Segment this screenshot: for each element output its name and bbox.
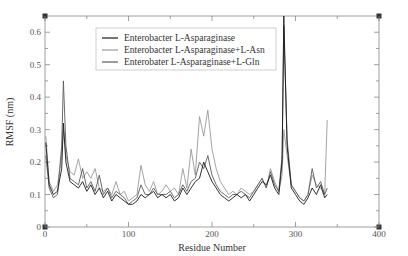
legend-entry: Enterobacter L-Asparaginase+L-Asn <box>124 45 265 55</box>
rmsf-chart: 010020030040000.10.20.30.40.50.6 RMSF (n… <box>0 0 408 256</box>
y-tick-label: 0.1 <box>30 190 41 200</box>
y-tick-label: 0.5 <box>30 60 42 70</box>
legend: Enterobacter L-AsparaginaseEnterobacter … <box>96 28 276 70</box>
x-tick-label: 400 <box>372 229 386 239</box>
series-line <box>46 110 327 201</box>
y-tick-label: 0.6 <box>30 27 42 37</box>
x-tick-label: 300 <box>289 229 303 239</box>
legend-entry: Enterobacter L-Asparaginase <box>124 33 235 43</box>
y-axis-title: RMSF (nm) <box>4 98 16 147</box>
legend-entry: Enterobater L-Asparaginase+L-Gln <box>124 57 260 67</box>
x-tick-label: 0 <box>43 229 48 239</box>
y-tick-label: 0.3 <box>30 125 42 135</box>
y-tick-label: 0.2 <box>30 157 41 167</box>
x-tick-label: 200 <box>205 229 219 239</box>
y-tick-label: 0.4 <box>30 92 42 102</box>
y-tick-label: 0 <box>37 222 42 232</box>
x-axis-title: Residue Number <box>178 242 246 253</box>
x-tick-label: 100 <box>122 229 136 239</box>
